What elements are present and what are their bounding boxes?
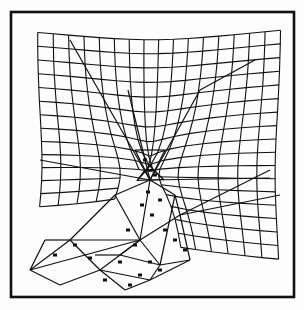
point-marker [148, 261, 152, 264]
grid-col-line [69, 35, 81, 204]
mesh-edge [180, 170, 270, 215]
grid-col-line [218, 35, 234, 254]
point-marker [133, 244, 137, 247]
point-marker [150, 214, 154, 217]
mesh-edge [140, 180, 150, 240]
grid-row-line [38, 30, 281, 39]
point-marker [163, 229, 167, 232]
grid-row-line [39, 99, 278, 112]
mesh-edge [70, 40, 150, 180]
grid-row-line [38, 71, 279, 82]
mesh-edge [40, 160, 150, 180]
point-marker [153, 174, 157, 177]
grid-col-line [38, 33, 42, 207]
point-marker [183, 249, 187, 252]
point-marker [118, 261, 122, 264]
grid-row-line [42, 178, 121, 181]
mesh-edge [30, 270, 60, 285]
mesh-edge [100, 270, 150, 280]
grid-col-line [159, 39, 189, 248]
mesh-edge [120, 255, 160, 265]
point-marker [53, 254, 57, 257]
mesh-edge [115, 195, 140, 240]
point-marker [146, 191, 150, 194]
figure-canvas [0, 0, 304, 310]
triangulated-mesh [30, 40, 280, 290]
point-marker [128, 284, 132, 287]
grid-row-line [39, 85, 279, 97]
mesh-edge [160, 195, 175, 265]
mesh-edge [175, 195, 180, 215]
deformation-grid-diagram [0, 0, 304, 310]
mesh-edge [128, 90, 150, 180]
mesh-edge [140, 215, 180, 240]
grid-col-line [99, 38, 120, 200]
grid-col-line [137, 40, 159, 181]
grid-col-line [178, 37, 203, 249]
mesh-edge [30, 240, 70, 270]
grid-col-line [275, 30, 280, 259]
warped-grid-lines [38, 30, 281, 259]
mesh-edge [60, 270, 100, 285]
mesh-edge [115, 180, 150, 195]
mesh-edge [30, 240, 45, 270]
mesh-edge [150, 180, 175, 195]
point-marker [173, 239, 177, 242]
point-marker [143, 159, 147, 162]
point-marker [88, 257, 92, 260]
point-marker [140, 204, 144, 207]
point-marker [103, 279, 107, 282]
grid-col-line [257, 32, 265, 258]
point-marker [73, 244, 77, 247]
point-marker [158, 269, 162, 272]
mesh-edge [150, 150, 165, 180]
point-marker [138, 274, 142, 277]
point-marker [126, 229, 130, 232]
point-marker [158, 199, 162, 202]
